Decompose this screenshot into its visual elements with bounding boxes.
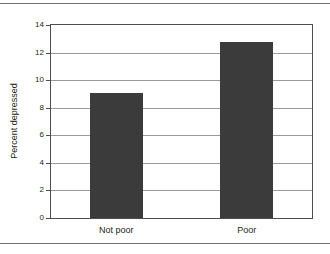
y-axis-title: Percent depressed — [10, 83, 19, 159]
y-axis-tick-label: 0 — [40, 214, 44, 222]
y-axis-tick — [46, 80, 51, 81]
y-axis-tick — [46, 163, 51, 164]
x-axis-tick-label: Poor — [237, 226, 256, 235]
y-axis-tick — [46, 218, 51, 219]
bar — [220, 42, 273, 218]
y-axis-tick — [46, 53, 51, 54]
y-axis-tick-label: 12 — [35, 49, 44, 57]
bottom-rule — [0, 243, 330, 244]
plot-area: 02468101214 — [50, 24, 313, 219]
y-axis-tick — [46, 190, 51, 191]
top-rule — [0, 3, 330, 4]
figure: Percent depressed 02468101214 Not poorPo… — [0, 0, 330, 254]
bar — [90, 93, 143, 218]
y-axis-tick — [46, 135, 51, 136]
y-axis-tick-label: 10 — [35, 76, 44, 84]
x-axis-tick-label: Not poor — [99, 226, 134, 235]
y-axis-tick-label: 8 — [40, 104, 44, 112]
y-axis-tick — [46, 108, 51, 109]
y-axis-tick-label: 6 — [40, 131, 44, 139]
y-axis-tick-label: 4 — [40, 159, 44, 167]
y-axis-tick-label: 2 — [40, 186, 44, 194]
y-axis-tick-label: 14 — [35, 21, 44, 29]
y-axis-tick — [46, 25, 51, 26]
